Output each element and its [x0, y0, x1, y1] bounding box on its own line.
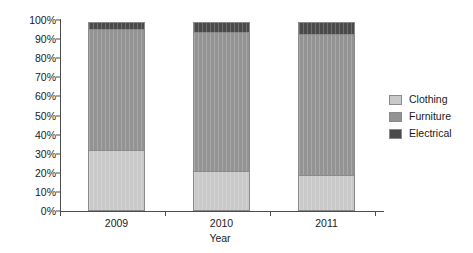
- legend-swatch-clothing: [389, 95, 402, 105]
- bar-segment-clothing[interactable]: [88, 150, 145, 211]
- x-axis-tick-mark: [375, 211, 376, 216]
- y-axis-tick-label: 50%: [35, 110, 56, 121]
- y-axis-tick-label: 100%: [29, 15, 56, 26]
- x-axis-title: Year: [0, 233, 440, 244]
- y-axis-tick-label: 0%: [41, 206, 56, 217]
- bar-2010[interactable]: [193, 22, 250, 211]
- legend-swatch-electrical: [389, 129, 402, 139]
- stacked-bar-chart: 0%10%20%30%40%50%60%70%80%90%100% 200920…: [0, 0, 473, 253]
- legend-label: Furniture: [409, 111, 451, 122]
- y-axis-tick-label: 90%: [35, 34, 56, 45]
- x-axis-tick-label: 2009: [77, 218, 157, 229]
- bar-segment-electrical[interactable]: [298, 22, 355, 35]
- x-axis-line: [60, 211, 384, 212]
- y-axis-tick-label: 20%: [35, 168, 56, 179]
- x-axis-tick-label: 2010: [182, 218, 262, 229]
- x-axis-tick-label: 2011: [287, 218, 367, 229]
- bar-segment-clothing[interactable]: [193, 171, 250, 211]
- x-axis-tick-mark: [60, 211, 61, 216]
- x-axis-tick-mark: [270, 211, 271, 216]
- legend-item-furniture[interactable]: Furniture: [389, 108, 452, 125]
- bar-segment-furniture[interactable]: [193, 32, 250, 171]
- y-axis-tick-label: 70%: [35, 72, 56, 83]
- y-axis-tick-label: 40%: [35, 129, 56, 140]
- legend-label: Clothing: [409, 94, 448, 105]
- bar-2009[interactable]: [88, 22, 145, 211]
- legend-item-electrical[interactable]: Electrical: [389, 125, 452, 142]
- y-axis-tick-label: 80%: [35, 53, 56, 64]
- legend-swatch-furniture: [389, 112, 402, 122]
- legend-label: Electrical: [409, 128, 452, 139]
- bar-segment-clothing[interactable]: [298, 175, 355, 211]
- y-axis-tick-label: 30%: [35, 148, 56, 159]
- legend-item-clothing[interactable]: Clothing: [389, 91, 452, 108]
- bar-segment-furniture[interactable]: [298, 34, 355, 175]
- x-axis-tick-mark: [165, 211, 166, 216]
- y-axis-tick-label: 10%: [35, 187, 56, 198]
- bar-segment-furniture[interactable]: [88, 29, 145, 151]
- bar-2011[interactable]: [298, 22, 355, 211]
- plot-area: [60, 20, 380, 211]
- y-axis: 0%10%20%30%40%50%60%70%80%90%100%: [0, 0, 56, 253]
- chart-legend: ClothingFurnitureElectrical: [389, 91, 452, 142]
- y-axis-tick-label: 60%: [35, 91, 56, 102]
